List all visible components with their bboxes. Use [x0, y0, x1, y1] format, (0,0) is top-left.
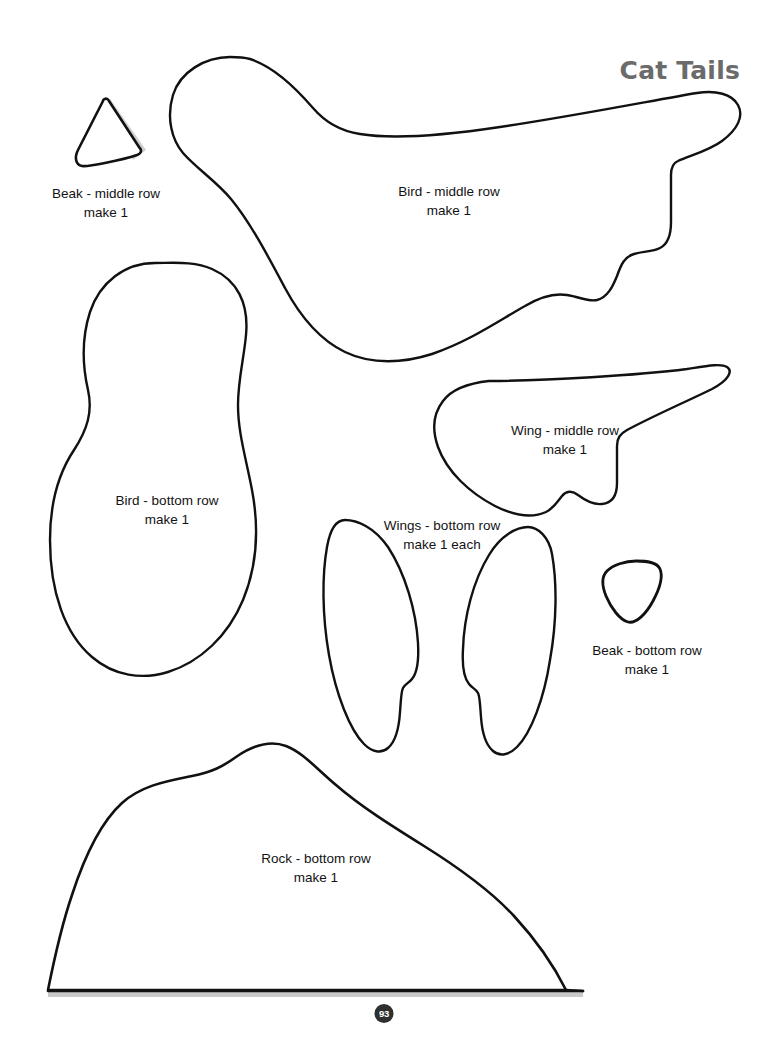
- piece-label-name: Bird - bottom row: [116, 491, 219, 510]
- piece-label-name: Wing - middle row: [511, 421, 619, 440]
- piece-label-wings-bottom: Wings - bottom row make 1 each: [384, 516, 500, 554]
- rock-bottom-right-edge: [566, 990, 583, 991]
- pattern-page: Cat Tails: [0, 0, 768, 1037]
- piece-label-rock-bottom: Rock - bottom row make 1: [261, 849, 371, 887]
- piece-label-quantity: make 1: [52, 203, 160, 222]
- piece-label-name: Bird - middle row: [398, 182, 499, 201]
- page-number-badge: 93: [375, 1004, 394, 1023]
- shape-beak-middle: [76, 99, 146, 166]
- piece-label-name: Beak - bottom row: [592, 641, 702, 660]
- piece-label-bird-middle: Bird - middle row make 1: [398, 182, 499, 220]
- wing-bottom-left-outline: [323, 520, 418, 751]
- shape-wing-bottom-right: [463, 527, 556, 754]
- rock-bottom-shadow: [48, 992, 583, 997]
- piece-label-quantity: make 1: [398, 201, 499, 220]
- wing-bottom-right-outline: [463, 527, 556, 754]
- piece-label-beak-middle: Beak - middle row make 1: [52, 184, 160, 222]
- piece-label-beak-bottom: Beak - bottom row make 1: [592, 641, 702, 679]
- piece-label-quantity: make 1 each: [384, 535, 500, 554]
- piece-label-name: Wings - bottom row: [384, 516, 500, 535]
- shape-bird-bottom: [50, 263, 256, 676]
- piece-label-quantity: make 1: [261, 868, 371, 887]
- piece-label-quantity: make 1: [592, 660, 702, 679]
- bird-bottom-outline: [50, 263, 256, 676]
- piece-label-bird-bottom: Bird - bottom row make 1: [116, 491, 219, 529]
- piece-label-quantity: make 1: [116, 510, 219, 529]
- piece-label-name: Beak - middle row: [52, 184, 160, 203]
- piece-label-wing-middle: Wing - middle row make 1: [511, 421, 619, 459]
- piece-label-quantity: make 1: [511, 440, 619, 459]
- piece-label-name: Rock - bottom row: [261, 849, 371, 868]
- beak-bottom-outline: [603, 561, 661, 622]
- shape-beak-bottom: [603, 561, 661, 622]
- shape-wing-bottom-left: [323, 520, 418, 751]
